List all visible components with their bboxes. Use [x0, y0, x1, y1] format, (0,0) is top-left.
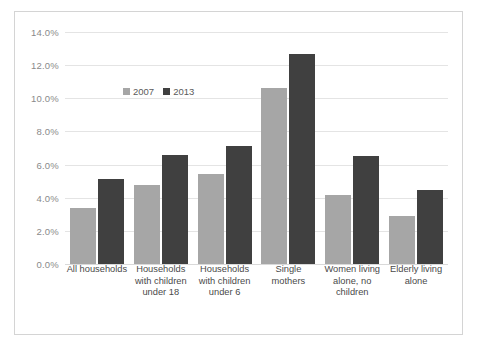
bar-2007-5: [389, 216, 415, 264]
chart-frame: 14.0%12.0%10.0%8.0%6.0%4.0%2.0%0.0% All …: [14, 11, 463, 335]
category-label-line: All households: [66, 264, 128, 276]
category-label-line: children: [321, 287, 383, 299]
category-label-line: Elderly living: [385, 264, 447, 276]
category-label-line: under 18: [130, 287, 192, 299]
category-label-line: Women living: [321, 264, 383, 276]
legend-label: 2013: [173, 86, 194, 97]
bar-group: [129, 32, 193, 264]
category-axis-labels: All householdsHouseholdswith childrenund…: [65, 264, 448, 326]
category-label-line: with children: [130, 276, 192, 288]
legend-entry-2013[interactable]: 2013: [163, 86, 194, 97]
category-label-line: Households: [194, 264, 256, 276]
y-axis-tick-label: 2.0%: [37, 225, 59, 236]
bar-2007-3: [261, 88, 287, 264]
bar-2007-1: [134, 185, 160, 264]
y-axis-tick-label: 6.0%: [37, 159, 59, 170]
category-label: Women livingalone, nochildren: [320, 264, 384, 326]
category-label: Elderly livingalone: [384, 264, 448, 326]
bar-group: [320, 32, 384, 264]
bar-2007-4: [325, 195, 351, 264]
category-label: All households: [65, 264, 129, 326]
category-label-line: alone, no: [321, 276, 383, 288]
bar-group: [384, 32, 448, 264]
y-axis-tick-label: 0.0%: [37, 259, 59, 270]
bar-2013-1: [162, 155, 188, 264]
y-axis-tick-label: 10.0%: [31, 93, 59, 104]
legend-entry-2007[interactable]: 2007: [123, 86, 154, 97]
legend-label: 2007: [133, 86, 154, 97]
bar-2013-5: [417, 190, 443, 264]
legend-swatch-icon: [163, 88, 170, 95]
bar-2013-4: [353, 156, 379, 264]
chart-legend: 20072013: [123, 86, 194, 97]
bar-group: [65, 32, 129, 264]
bar-2013-0: [98, 179, 124, 264]
category-label-line: alone: [385, 276, 447, 288]
legend-swatch-icon: [123, 88, 130, 95]
category-label: Householdswith childrenunder 18: [129, 264, 193, 326]
y-axis-tick-label: 14.0%: [31, 27, 59, 38]
category-label: Single mothers: [256, 264, 320, 326]
category-label: Householdswith childrenunder 6: [193, 264, 257, 326]
category-label-line: Single mothers: [257, 264, 319, 287]
y-axis-tick-label: 8.0%: [37, 126, 59, 137]
bar-2013-3: [289, 54, 315, 264]
plot-area: 14.0%12.0%10.0%8.0%6.0%4.0%2.0%0.0%: [65, 32, 448, 264]
bar-group: [256, 32, 320, 264]
bar-2007-0: [70, 208, 96, 264]
bar-2007-2: [198, 174, 224, 264]
y-axis-tick-label: 4.0%: [37, 192, 59, 203]
bar-groups: [65, 32, 448, 264]
category-label-line: under 6: [194, 287, 256, 299]
bar-2013-2: [226, 146, 252, 264]
category-label-line: Households: [130, 264, 192, 276]
bar-group: [193, 32, 257, 264]
category-label-line: with children: [194, 276, 256, 288]
y-axis-tick-label: 12.0%: [31, 60, 59, 71]
